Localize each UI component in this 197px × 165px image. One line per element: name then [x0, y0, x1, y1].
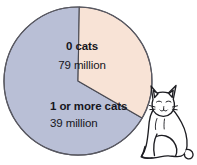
cat-illustration: [131, 76, 195, 164]
pie-chart-figure: 0 cats 79 million 1 or more cats 39 mill…: [0, 0, 197, 165]
